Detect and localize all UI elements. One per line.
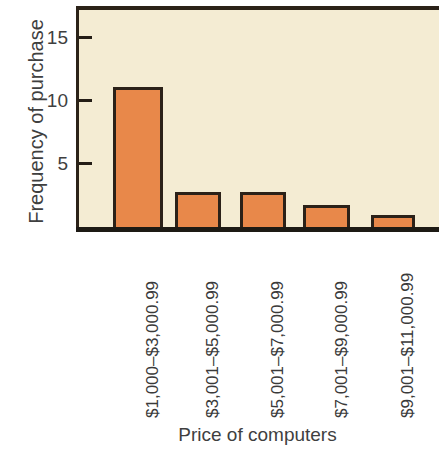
x-tick-label-5: $9,001–$11,000.99 bbox=[399, 238, 417, 418]
x-axis-line bbox=[76, 227, 439, 232]
bar-1 bbox=[113, 87, 163, 231]
x-tick-label-1: $1,000–$3,000.99 bbox=[144, 238, 162, 418]
y-tick-label-15: 15 bbox=[28, 27, 68, 49]
y-tick-mark-10 bbox=[79, 99, 92, 102]
y-tick-label-10: 10 bbox=[28, 90, 68, 112]
bar-3 bbox=[240, 192, 286, 231]
y-tick-label-5: 5 bbox=[28, 153, 68, 175]
bar-2 bbox=[175, 192, 221, 231]
plot-area bbox=[76, 6, 439, 231]
bar-chart-figure: Frequency of purchase 15 10 5 $1,000–$3,… bbox=[0, 0, 439, 456]
y-axis-tick-labels: 15 10 5 bbox=[26, 0, 68, 232]
x-tick-label-2: $3,001–$5,000.99 bbox=[204, 238, 222, 418]
x-tick-label-4: $7,001–$9,000.99 bbox=[333, 238, 351, 418]
y-tick-mark-15 bbox=[79, 36, 92, 39]
y-tick-mark-5 bbox=[79, 162, 92, 165]
x-axis-title: Price of computers bbox=[76, 424, 439, 446]
x-tick-label-3: $5,001–$7,000.99 bbox=[269, 238, 287, 418]
